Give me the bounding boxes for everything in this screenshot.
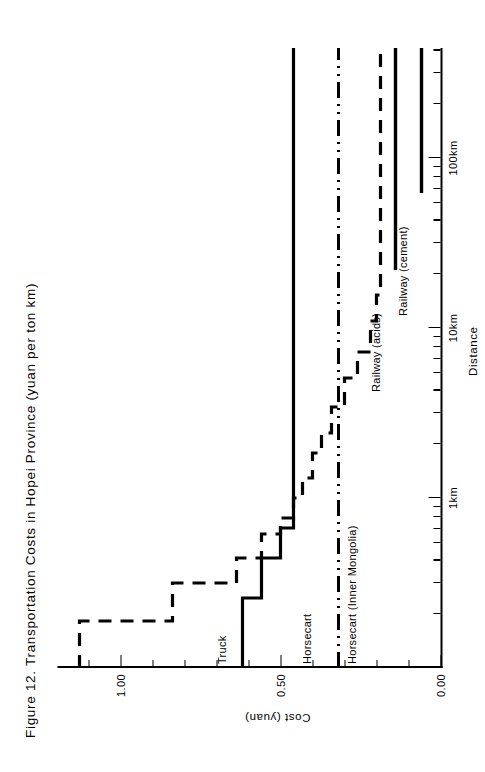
y-axis-label-000: 0.00: [434, 674, 446, 708]
series-label-horsecart: Horsecart: [300, 614, 312, 664]
plot-area: 1km 10km 100km 0.00 0.50 1.00: [57, 48, 442, 668]
x-axis-title: Distance: [466, 326, 478, 376]
y-axis-title: Cost (yuan): [244, 712, 310, 724]
series-truck-line: [79, 48, 380, 668]
x-axis-label-10km: 10km: [446, 314, 458, 343]
series-curves: [57, 48, 442, 668]
figure-page: Figure 12. Transportation Costs in Hopei…: [0, 0, 485, 772]
y-axis-label-100: 1.00: [114, 674, 126, 708]
series-label-truck: Truck: [215, 635, 227, 664]
figure-title: Figure 12. Transportation Costs in Hopei…: [22, 283, 37, 738]
series-label-railway-acids: Railway (acids): [369, 313, 381, 392]
y-axis-label-050: 0.50: [274, 674, 286, 708]
figure-canvas: Figure 12. Transportation Costs in Hopei…: [0, 0, 485, 772]
x-axis-label-1km: 1km: [446, 487, 458, 509]
series-horsecart-line: [242, 48, 293, 668]
x-axis-label-100km: 100km: [446, 140, 458, 175]
series-label-horsecart-inner-mongolia: Horsecart (Inner Mongolia): [345, 525, 357, 664]
series-label-railway-cement: Railway (cement): [396, 226, 408, 316]
